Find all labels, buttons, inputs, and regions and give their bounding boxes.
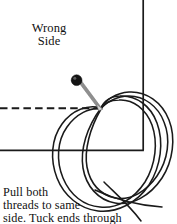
caption-instruction-line-2: threads to same — [3, 199, 122, 212]
pin-head-highlight — [73, 77, 76, 80]
caption-instruction-line-3: side. Tuck ends through — [3, 212, 122, 224]
label-wrong-side: Wrong Side — [14, 22, 84, 47]
sewing-diagram-figure: Wrong Side Pull both threads to same sid… — [0, 0, 177, 224]
label-wrong-side-line-2: Side — [14, 35, 84, 48]
label-wrong-side-line-1: Wrong — [14, 22, 84, 35]
pin-head — [71, 75, 82, 86]
caption-instruction-line-1: Pull both — [3, 186, 122, 199]
caption-instruction: Pull both threads to same side. Tuck end… — [3, 186, 122, 224]
